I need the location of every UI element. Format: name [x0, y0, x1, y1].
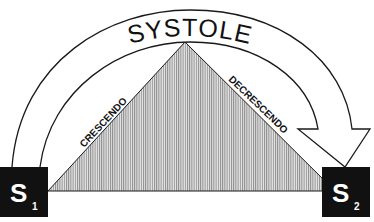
- s1-letter: S: [10, 178, 27, 208]
- s1-subscript: 1: [32, 201, 38, 212]
- s2-subscript: 2: [354, 201, 360, 212]
- title-systole: SYSTOLE: [125, 13, 256, 49]
- s2-box: S 2: [322, 167, 370, 217]
- s1-box: S 1: [0, 167, 48, 217]
- s2-letter: S: [332, 178, 349, 208]
- systole-diagram: SYSTOLE CRESCENDO DECRESCENDO S 1 S 2: [0, 0, 374, 222]
